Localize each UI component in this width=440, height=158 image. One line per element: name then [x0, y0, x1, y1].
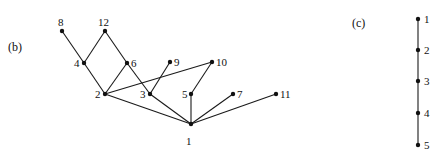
node-label: 10	[216, 57, 227, 68]
node-label: 2	[95, 89, 101, 100]
node-label: 4	[424, 108, 430, 119]
hasse-diagram-figure: 123456789101112(b)12345(c)	[0, 0, 440, 158]
node-6-dot	[125, 61, 129, 65]
node-5-dot	[189, 92, 193, 96]
node-label: 4	[74, 58, 80, 69]
node-8-dot	[60, 29, 64, 33]
edge-2-10	[105, 62, 212, 94]
panel-b	[60, 29, 278, 126]
edge-9-3	[150, 62, 170, 94]
node-label: 11	[280, 89, 291, 100]
panel-label: (c)	[352, 17, 365, 29]
node-1-dot	[189, 122, 193, 126]
node-12-dot	[103, 29, 107, 33]
node-4-dot	[82, 61, 86, 65]
node-10-dot	[210, 60, 214, 64]
node-label: 1	[424, 14, 430, 25]
node-5-dot	[416, 143, 420, 147]
node-3-dot	[416, 79, 420, 83]
node-label: 7	[237, 89, 243, 100]
node-3-dot	[148, 92, 152, 96]
node-11-dot	[274, 92, 278, 96]
edge-11-1	[191, 94, 276, 124]
edge-12-6	[105, 31, 127, 63]
edge-7-1	[191, 94, 233, 124]
node-4-dot	[416, 111, 420, 115]
panel-label: (b)	[8, 41, 22, 53]
node-label: 1	[186, 136, 192, 147]
node-2-dot	[103, 92, 107, 96]
panel-c	[416, 17, 420, 147]
node-label: 8	[58, 17, 64, 28]
node-label: 5	[424, 140, 430, 151]
edge-2-1	[105, 94, 191, 124]
node-label: 3	[140, 89, 146, 100]
node-label: 6	[131, 58, 137, 69]
diagram-edges-layer	[0, 0, 440, 158]
edge-12-4	[84, 31, 105, 63]
node-label: 12	[98, 17, 109, 28]
node-2-dot	[416, 48, 420, 52]
node-label: 3	[424, 76, 430, 87]
edge-8-4	[62, 31, 84, 63]
node-7-dot	[231, 92, 235, 96]
node-label: 2	[424, 45, 430, 56]
node-1-dot	[416, 17, 420, 21]
edge-6-2	[105, 63, 127, 94]
node-label: 9	[174, 57, 180, 68]
node-label: 5	[182, 89, 188, 100]
node-9-dot	[168, 60, 172, 64]
